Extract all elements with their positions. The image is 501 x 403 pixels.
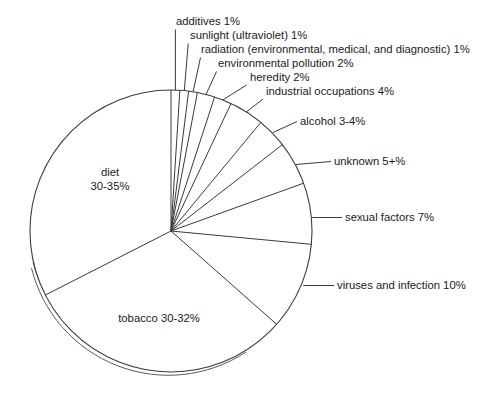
label-additives: additives 1% xyxy=(176,15,240,27)
label-sexual-factors: sexual factors 7% xyxy=(345,211,434,223)
leader-sunlight xyxy=(184,44,188,91)
leader-heredity xyxy=(223,85,247,100)
label-heredity: heredity 2% xyxy=(250,71,310,83)
label-sunlight-ultraviolet: sunlight (ultraviolet) 1% xyxy=(190,29,307,41)
label-alcohol: alcohol 3-4% xyxy=(300,115,365,127)
label-tobacco: tobacco 30-32% xyxy=(118,312,200,324)
pie-chart-svg: additives 1% sunlight (ultraviolet) 1% r… xyxy=(0,0,501,403)
label-diet-line2: 30-35% xyxy=(91,180,130,192)
label-industrial-occupations: industrial occupations 4% xyxy=(266,85,394,97)
label-unknown: unknown 5+% xyxy=(334,155,405,167)
label-environmental-pollution: environmental pollution 2% xyxy=(218,57,354,69)
label-diet-line1: diet xyxy=(101,166,120,178)
leader-industrial-occupations xyxy=(247,99,263,112)
leader-environmental-pollution xyxy=(206,72,216,95)
label-radiation: radiation (environmental, medical, and d… xyxy=(201,43,470,55)
label-viruses-and-infection: viruses and infection 10% xyxy=(337,279,466,291)
leader-radiation xyxy=(193,58,200,92)
leader-unknown xyxy=(296,162,331,165)
pie-chart-figure: additives 1% sunlight (ultraviolet) 1% r… xyxy=(0,0,501,403)
leader-alcohol xyxy=(273,122,297,133)
